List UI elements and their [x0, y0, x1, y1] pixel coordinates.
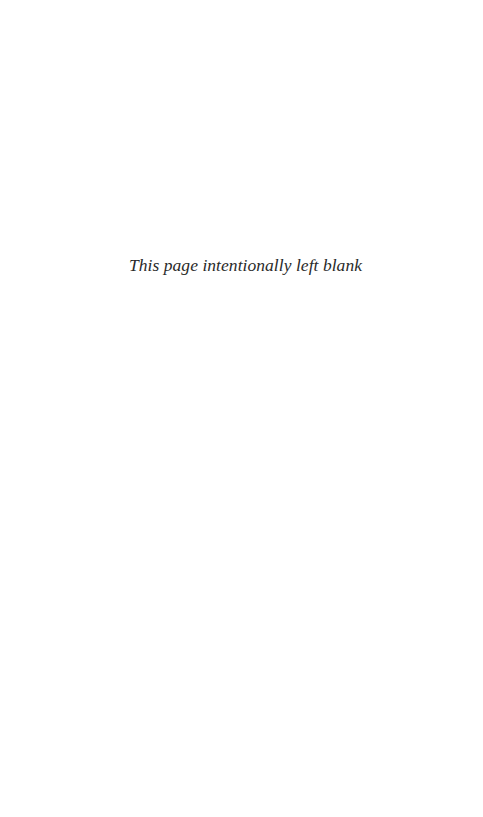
intentionally-blank-notice: This page intentionally left blank: [0, 254, 483, 276]
blank-page: This page intentionally left blank: [0, 0, 483, 817]
